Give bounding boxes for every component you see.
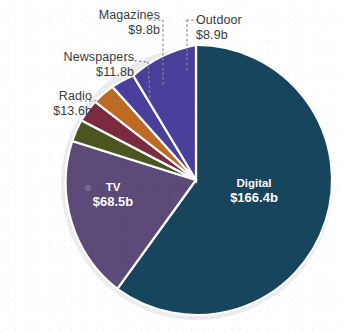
callout-outdoor-label: Outdoor <box>196 13 296 28</box>
slice-label-digital: Digital $166.4b <box>208 176 300 207</box>
slice-label-digital-value: $166.4b <box>208 190 300 206</box>
callout-magazines: Magazines $9.8b <box>52 8 160 39</box>
callout-radio-label: Radio <box>10 89 92 104</box>
callout-magazines-value: $9.8b <box>52 23 160 38</box>
callout-radio: Radio $13.6b <box>10 89 92 120</box>
slice-label-tv-value: $68.5b <box>78 194 148 210</box>
slice-label-tv-name: TV <box>78 180 148 194</box>
callout-outdoor: Outdoor $8.9b <box>196 13 296 44</box>
callout-newspapers-value: $11.8b <box>12 65 134 80</box>
pie-chart: Magazines $9.8b Outdoor $8.9b Newspapers… <box>0 0 344 333</box>
callout-newspapers: Newspapers $11.8b <box>12 50 134 81</box>
callout-newspapers-label: Newspapers <box>12 50 134 65</box>
callout-radio-value: $13.6b <box>10 104 92 119</box>
slice-label-tv: TV $68.5b <box>78 180 148 211</box>
callout-outdoor-value: $8.9b <box>196 28 296 43</box>
callout-magazines-label: Magazines <box>52 8 160 23</box>
slice-label-digital-name: Digital <box>208 176 300 190</box>
